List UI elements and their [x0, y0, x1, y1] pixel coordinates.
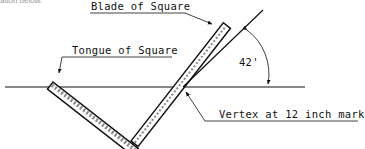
- blade-leader: [90, 13, 212, 24]
- tongue-of-square: [47, 82, 138, 149]
- tongue-label: Tongue of Square: [72, 44, 178, 56]
- tongue-leader: [59, 57, 172, 73]
- blade-label: Blade of Square: [91, 0, 190, 12]
- angle-label: 42': [239, 56, 259, 68]
- reference-line: [183, 10, 263, 87]
- blade-of-square: [131, 23, 230, 147]
- vertex-label: Vertex at 12 inch mark: [219, 108, 365, 120]
